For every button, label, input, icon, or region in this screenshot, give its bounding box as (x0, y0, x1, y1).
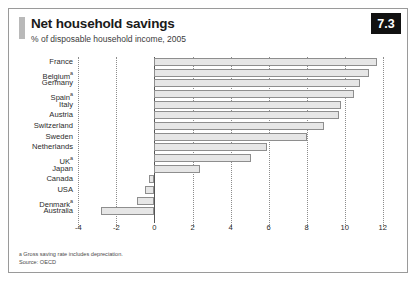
x-tick-label: -4 (75, 223, 82, 232)
bar-row (78, 132, 382, 143)
bar-japan (154, 165, 200, 173)
x-axis-tick-labels: -4-2024681012 (78, 223, 382, 239)
bar-row (78, 100, 382, 111)
x-tick-label: 8 (304, 223, 308, 232)
x-tick-label: 4 (228, 223, 232, 232)
bar-usa (145, 186, 155, 194)
bar-switzerland (154, 122, 323, 130)
category-footnote-marker: a (70, 155, 73, 161)
category-label-germany: Germany (42, 78, 73, 89)
category-label-japan: Japan (52, 164, 73, 175)
bar-row (78, 153, 382, 164)
x-tick-label: 6 (266, 223, 270, 232)
bar-row (78, 164, 382, 175)
x-tick-label: 2 (190, 223, 194, 232)
chart-footer: a Gross saving rate includes depreciatio… (19, 250, 379, 266)
bar-row (78, 110, 382, 121)
category-label-canada: Canada (46, 174, 73, 185)
bar-row (78, 78, 382, 89)
x-tick-label: 10 (340, 223, 348, 232)
bar-row (78, 121, 382, 132)
bar-row (78, 142, 382, 153)
figure-number-badge: 7.3 (371, 13, 401, 34)
x-tick-label: -2 (113, 223, 120, 232)
bar-chart: FranceBelgiumaGermanySpainaItalyAustriaS… (9, 53, 409, 239)
source-line: Source: OECD (19, 258, 379, 266)
x-tick-label: 0 (152, 223, 156, 232)
footnote-line: a Gross saving rate includes depreciatio… (19, 250, 379, 258)
gridline-12 (383, 57, 384, 227)
category-label-sweden: Sweden (46, 132, 73, 143)
page-subtitle: % of disposable household income, 2005 (31, 34, 186, 44)
bar-rows (78, 57, 382, 217)
plot-area (78, 57, 382, 217)
bar-row (78, 68, 382, 79)
category-label-switzerland: Switzerland (34, 121, 73, 132)
bar-australia (101, 207, 154, 215)
bar-france (154, 58, 377, 66)
bar-row (78, 185, 382, 196)
title-accent-mark (19, 17, 25, 39)
bar-italy (154, 101, 340, 109)
category-label-france: France (49, 57, 73, 68)
category-footnote-marker: a (70, 91, 73, 97)
footnote-marker: a (19, 251, 22, 257)
bar-row (78, 196, 382, 207)
bar-row (78, 174, 382, 185)
bar-spain (154, 90, 354, 98)
category-label-netherlands: Netherlands (32, 142, 73, 153)
footnote-text: Gross saving rate includes depreciation. (23, 251, 123, 257)
x-tick-label: 12 (378, 223, 386, 232)
bar-netherlands (154, 143, 266, 151)
category-footnote-marker: a (70, 70, 73, 76)
category-label-austria: Austria (49, 110, 73, 121)
bar-sweden (154, 133, 306, 141)
bar-denmark (137, 197, 154, 205)
bar-row (78, 206, 382, 217)
category-label-italy: Italy (59, 100, 73, 111)
bar-canada (149, 175, 155, 183)
bar-austria (154, 111, 338, 119)
figure-panel: Net household savings % of disposable ho… (8, 8, 408, 273)
category-label-usa: USA (57, 185, 73, 196)
bar-uk (154, 154, 251, 162)
category-label-australia: Australia (43, 206, 73, 217)
bar-row (78, 57, 382, 68)
chart-header: Net household savings % of disposable ho… (9, 9, 407, 53)
bar-belgium (154, 69, 369, 77)
bar-row (78, 89, 382, 100)
category-axis-labels: FranceBelgiumaGermanySpainaItalyAustriaS… (9, 57, 73, 217)
bar-germany (154, 79, 359, 87)
page-title: Net household savings (31, 16, 175, 31)
category-footnote-marker: a (70, 198, 73, 204)
